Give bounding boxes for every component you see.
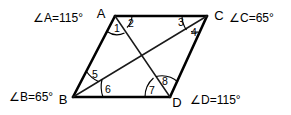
angle-arc-6 — [101, 80, 103, 98]
angle-measure-label-c: ∠C=65° — [229, 11, 274, 25]
vertex-label-b: B — [59, 92, 68, 107]
vertex-label-c: C — [214, 8, 223, 23]
angle-measure-label-a: ∠A=115° — [33, 11, 83, 25]
angle-number-6: 6 — [105, 83, 111, 95]
angle-number-1: 1 — [114, 22, 120, 34]
angle-number-2: 2 — [128, 17, 134, 29]
angle-number-8: 8 — [162, 75, 168, 87]
angle-number-5: 5 — [92, 68, 98, 80]
angle-number-7: 7 — [149, 84, 155, 96]
geometry-diagram: A C B D ∠A=115° ∠C=65° ∠B=65° ∠D=115° 1 … — [0, 0, 291, 115]
side-dc — [170, 16, 207, 97]
angle-measure-label-b: ∠B=65° — [9, 90, 53, 104]
vertex-label-d: D — [172, 95, 181, 110]
parallelogram-figure: A C B D ∠A=115° ∠C=65° ∠B=65° ∠D=115° 1 … — [0, 0, 291, 115]
angle-number-4: 4 — [191, 26, 197, 38]
angle-measure-label-d: ∠D=115° — [190, 93, 241, 107]
angle-number-3: 3 — [178, 16, 184, 28]
vertex-label-a: A — [97, 6, 106, 21]
